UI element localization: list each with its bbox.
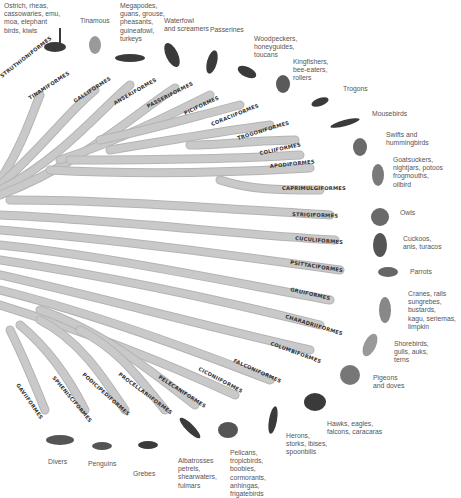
crane-icon: [379, 297, 391, 323]
kingfisher-icon: [276, 75, 290, 93]
order-charadriiformes: CHARADRIIFORMES: [285, 313, 344, 336]
diver-icon: [46, 435, 74, 445]
tinamou-icon: [89, 36, 101, 54]
parrot-icon: [378, 267, 398, 277]
group-label-albatrosses: Albatrosses petrels, shearwaters, fulmar…: [178, 457, 217, 490]
group-label-tinamous: Tinamous: [80, 17, 110, 25]
group-label-owls: Owls: [400, 209, 415, 217]
group-label-herons: Herons, storks, ibises, spoonbills: [286, 432, 327, 457]
group-label-shorebirds: Shorebirds, gulls, auks, terns: [394, 340, 429, 365]
pigeon-icon: [340, 365, 360, 385]
group-label-divers: Divers: [48, 458, 67, 466]
owl-icon: [371, 208, 389, 226]
order-galliformes: GALLIFORMES: [72, 75, 112, 104]
cuckoo-icon: [373, 233, 387, 257]
group-label-swifts: Swifts and hummingbirds: [386, 131, 429, 147]
ostrich-icon: [44, 42, 66, 52]
group-label-woodpeckers: Woodpeckers, honeyguides, toucans: [254, 35, 297, 60]
group-label-kingfishers: Kingfishers, bee-eaters, rollers: [293, 58, 329, 83]
nightjar-icon: [372, 164, 384, 186]
order-struthioniformes: STRUTHIONIFORMES: [0, 35, 53, 79]
group-label-cuckoos: Cuckoos, anis, turacos: [403, 235, 442, 251]
mousebird-icon: [330, 116, 361, 130]
passerine-icon: [204, 49, 220, 75]
trogon-icon: [310, 95, 330, 109]
group-label-trogons: Trogons: [343, 85, 368, 93]
shorebird-icon: [359, 332, 380, 359]
group-label-galliformes: Megapodes, guans, grouse, pheasants, gui…: [120, 2, 165, 43]
group-label-waterfowl: Waterfowl and screamers: [164, 17, 209, 33]
pelican-icon: [218, 422, 238, 438]
order-tinamiformes: TINAMIFORMES: [27, 70, 70, 101]
penguin-icon: [92, 442, 112, 450]
hawk-icon: [304, 393, 326, 411]
pheasant-icon: [115, 54, 145, 62]
group-label-pelicans: Pelicans, tropicbirds, boobies, cormoran…: [230, 449, 266, 498]
group-label-grebes: Grebes: [133, 470, 155, 478]
waterfowl-icon: [161, 41, 183, 70]
hummingbird-icon: [353, 138, 367, 156]
woodpecker-icon: [236, 63, 258, 81]
tree-branches: [0, 85, 340, 410]
group-label-passerines: Passerines: [210, 26, 244, 34]
group-label-ratites: Ostrich, rheas, cassowaries, emu, moa, e…: [4, 2, 60, 35]
grebe-icon: [138, 441, 158, 449]
group-label-pigeons: Pigeons and doves: [373, 374, 404, 390]
group-label-goatsuckers: Goatsuckers, nightjars, potoos frogmouth…: [393, 156, 443, 189]
group-label-mousebirds: Mousebirds: [372, 110, 407, 118]
order-caprimulgiformes: CAPRIMULGIFORMES: [282, 185, 346, 191]
group-label-penguins: Penguins: [88, 460, 116, 468]
albatross-icon: [177, 415, 202, 440]
group-label-hawks: Hawks, eagles, falcons, caracaras: [327, 420, 382, 436]
group-label-cranes: Cranes, rails sungrebes, bustards, kagu,…: [408, 290, 456, 331]
heron-icon: [267, 406, 280, 435]
group-label-parrots: Parrots: [410, 268, 432, 276]
